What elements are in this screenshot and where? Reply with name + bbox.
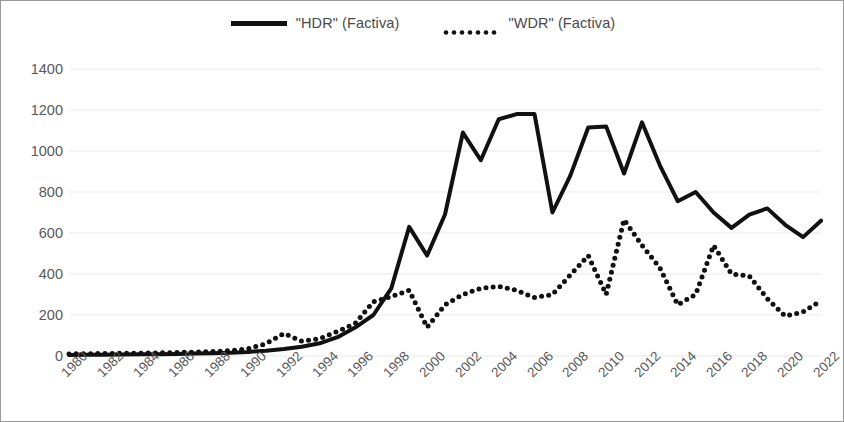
y-tick-label: 1200 <box>7 102 63 118</box>
dotted-line-swatch-icon <box>443 21 499 26</box>
data-series-layer <box>67 114 822 356</box>
chart-legend: "HDR" (Factiva) "WDR" (Factiva) <box>1 15 844 31</box>
y-tick-label: 400 <box>7 266 63 282</box>
series-line-2 <box>67 220 819 356</box>
legend-label-wdr: "WDR" (Factiva) <box>508 15 615 31</box>
y-tick-label: 1400 <box>7 61 63 77</box>
x-axis: 1980198219841986198819901992199419961998… <box>69 359 821 419</box>
y-tick-label: 600 <box>7 225 63 241</box>
solid-line-swatch-icon <box>231 21 287 26</box>
series-line-1 <box>69 114 821 355</box>
legend-entry-hdr: "HDR" (Factiva) <box>231 15 400 31</box>
y-tick-label: 0 <box>7 348 63 364</box>
chart-container: "HDR" (Factiva) "WDR" (Factiva) <box>0 0 844 422</box>
legend-label-hdr: "HDR" (Factiva) <box>296 15 400 31</box>
y-tick-label: 1000 <box>7 143 63 159</box>
legend-entry-wdr: "WDR" (Factiva) <box>443 15 615 31</box>
plot-area <box>69 69 821 356</box>
y-tick-label: 800 <box>7 184 63 200</box>
y-axis: 1400120010008006004002000 <box>1 1 63 422</box>
y-tick-label: 200 <box>7 307 63 323</box>
